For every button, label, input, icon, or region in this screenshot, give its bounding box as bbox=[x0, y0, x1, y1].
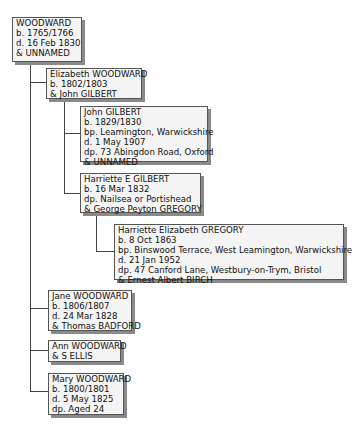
person-spouse: & Ernest Albert BIRCH bbox=[118, 276, 341, 286]
person-box-woodward[interactable]: WOODWARD b. 1765/1766 d. 16 Feb 1830 & U… bbox=[12, 17, 82, 62]
connector-harriette-e-trunk bbox=[96, 212, 97, 252]
connector-to-mary bbox=[30, 391, 48, 392]
person-box-jane-woodward[interactable]: Jane WOODWARD b. 1806/1807 d. 24 Mar 182… bbox=[48, 290, 132, 331]
person-death-place: dp. Aged 24 bbox=[52, 405, 121, 415]
connector-elizabeth-trunk bbox=[64, 98, 65, 193]
connector-to-harriette-elizabeth bbox=[96, 251, 114, 252]
person-spouse: & Thomas BADFORD bbox=[52, 322, 129, 332]
person-spouse: & UNNAMED bbox=[16, 49, 79, 59]
connector-to-john bbox=[64, 133, 80, 134]
person-box-mary-woodward[interactable]: Mary WOODWARD b. 1800/1801 d. 5 May 1825… bbox=[48, 373, 124, 415]
connector-to-elizabeth bbox=[30, 82, 46, 83]
connector-to-jane bbox=[30, 308, 48, 309]
person-box-harriette-elizabeth-gregory[interactable]: Harriette Elizabeth GREGORY b. 8 Oct 186… bbox=[114, 224, 344, 280]
connector-root-trunk bbox=[30, 62, 31, 392]
connector-to-harriette-e bbox=[64, 193, 80, 194]
person-spouse: & UNNAMED bbox=[84, 158, 205, 168]
connector-to-ann bbox=[30, 350, 48, 351]
person-box-elizabeth-woodward[interactable]: Elizabeth WOODWARD b. 1802/1803 & John G… bbox=[46, 68, 142, 99]
person-box-harriette-e-gilbert[interactable]: Harriette E GILBERT b. 16 Mar 1832 dp. N… bbox=[80, 173, 201, 213]
person-spouse: & John GILBERT bbox=[50, 90, 139, 100]
person-spouse: & George Peyton GREGORY bbox=[84, 205, 198, 215]
person-spouse: & S ELLIS bbox=[52, 352, 118, 362]
person-box-john-gilbert[interactable]: John GILBERT b. 1829/1830 bp. Leamington… bbox=[80, 106, 208, 162]
person-box-ann-woodward[interactable]: Ann WOODWARD & S ELLIS bbox=[48, 340, 121, 362]
